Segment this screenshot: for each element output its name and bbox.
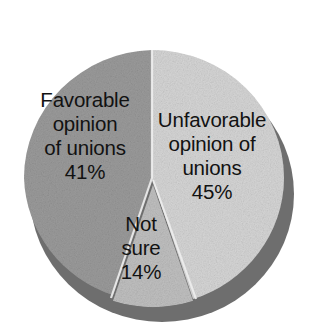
pie-chart: Favorable opinion of unions 41% Unfavora… [0,0,316,331]
pie-chart-graphic [0,0,316,331]
